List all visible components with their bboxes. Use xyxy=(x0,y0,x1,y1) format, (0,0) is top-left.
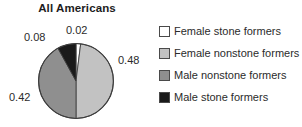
legend-item-male-nonstone-formers: Male nonstone formers xyxy=(159,69,299,81)
legend-swatch-icon xyxy=(159,92,170,103)
pie-chart-figure: All Americans 0.02 0.48 0.42 0.08 Female… xyxy=(0,0,302,127)
legend-swatch-icon xyxy=(159,48,170,59)
legend-swatch-icon xyxy=(159,26,170,37)
legend-item-label: Male nonstone formers xyxy=(174,69,287,81)
legend-item-male-stone-formers: Male stone formers xyxy=(159,91,299,103)
pie-label-male-stone-formers: 0.08 xyxy=(24,31,45,43)
pie-label-female-stone-formers: 0.02 xyxy=(66,24,87,36)
chart-legend: Female stone formers Female nonstone for… xyxy=(159,25,299,103)
pie-chart xyxy=(37,42,115,120)
chart-title: All Americans xyxy=(18,2,136,14)
pie-label-male-nonstone-formers: 0.42 xyxy=(9,91,30,103)
legend-item-label: Female stone formers xyxy=(174,25,281,37)
pie-slice-female-nonstone-formers xyxy=(76,44,113,119)
legend-item-female-nonstone-formers: Female nonstone formers xyxy=(159,47,299,59)
legend-swatch-icon xyxy=(159,70,170,81)
legend-item-label: Female nonstone formers xyxy=(174,47,299,59)
pie-svg xyxy=(37,42,115,120)
legend-item-label: Male stone formers xyxy=(174,91,268,103)
legend-item-female-stone-formers: Female stone formers xyxy=(159,25,299,37)
pie-label-female-nonstone-formers: 0.48 xyxy=(118,54,139,66)
